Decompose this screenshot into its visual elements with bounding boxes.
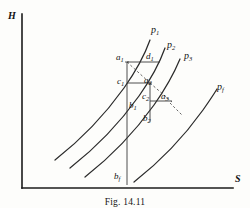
curve-label-p3: p3 [184, 51, 192, 61]
curve-label-pf: pf [217, 82, 224, 92]
segment-a3-extension-dashed [170, 103, 182, 115]
point-label-d1: d1 [146, 52, 154, 61]
point-label-bf: bf [114, 172, 120, 181]
point-label-b1: b1 [129, 101, 137, 110]
isobar-curves [55, 40, 217, 182]
point-label-a1: a1 [116, 53, 124, 62]
point-label-c1: c1 [117, 77, 124, 86]
curve-pf [134, 89, 217, 182]
figure-container: H S p1 p2 p3 pf a1 d1 c1 a2 c2 a3 b1 b2 … [0, 0, 250, 208]
figure-caption: Fig. 14.11 [0, 197, 250, 207]
axes [22, 14, 233, 188]
curve-p2 [70, 48, 165, 168]
point-label-a2: a2 [144, 76, 152, 85]
y-axis-label: H [8, 10, 16, 21]
curve-label-p2: p2 [167, 40, 175, 50]
x-axis-label: S [235, 173, 241, 184]
hs-diagram [0, 0, 250, 208]
curve-label-p1: p1 [151, 25, 159, 35]
point-label-c2: c2 [142, 92, 149, 101]
point-label-a3: a3 [161, 92, 169, 101]
point-label-b2: b2 [143, 114, 151, 123]
